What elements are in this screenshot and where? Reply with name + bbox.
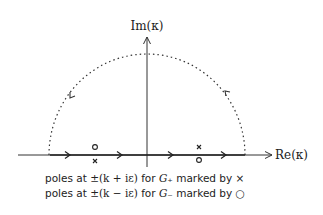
real-axis-label: Re(κ) [275, 148, 308, 162]
caption-expression: ±(k − iε) [90, 187, 138, 199]
caption-mid: for [138, 172, 159, 184]
caption-line-g-plus: poles at ±(k + iε) for G₊ marked by × [45, 172, 305, 185]
caption-function: G₋ [159, 187, 173, 199]
caption-function: G₊ [159, 172, 173, 184]
caption-mid: for [138, 187, 159, 199]
caption-expression: ±(k + iε) [90, 172, 138, 184]
arc-arrow-left-icon [70, 92, 75, 98]
caption-prefix: poles at [45, 187, 90, 199]
pole-circle-marker [93, 145, 98, 150]
caption-prefix: poles at [45, 172, 90, 184]
pole-cross-marker [197, 145, 201, 149]
caption-suffix: marked by ○ [173, 187, 245, 199]
imaginary-axis-label: Im(κ) [131, 19, 164, 33]
arc-arrow-right-icon [225, 91, 230, 96]
caption-suffix: marked by × [173, 172, 245, 184]
pole-circle-marker [197, 158, 202, 163]
arc-direction-arrows [70, 91, 230, 98]
caption-line-g-minus: poles at ±(k − iε) for G₋ marked by ○ [45, 187, 305, 200]
pole-cross-marker [93, 159, 97, 163]
